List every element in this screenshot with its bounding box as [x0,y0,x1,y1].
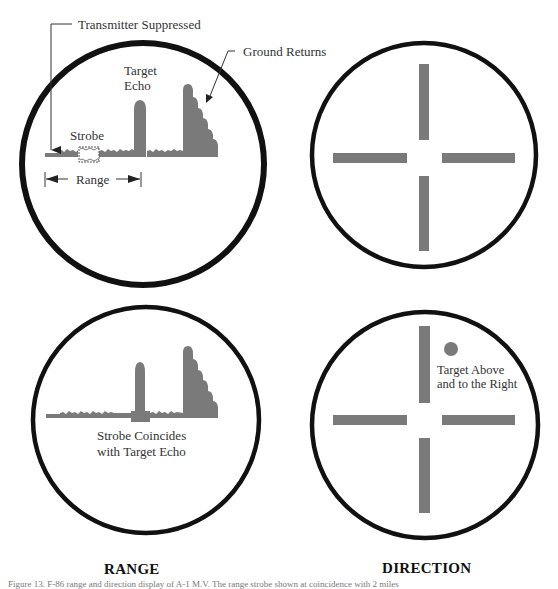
crosshair-top-bar [419,326,430,403]
baseline-trace [45,149,183,157]
direction-scope-bottom: Target Above and to the Right [312,312,538,538]
crosshair-bottom-bar [419,176,429,251]
crosshair-top-bar [419,64,429,140]
target-above-right-label-line2: and to the Right [437,377,518,391]
strobe-label: Strobe [70,128,104,143]
ground-returns-label: Ground Returns [243,44,326,59]
target-blip [444,342,458,356]
strobe-marker [79,147,99,162]
range-panel-title: RANGE [104,561,160,578]
range-scope-top: Transmitter Suppressed Ground Returns Ta… [22,17,326,285]
direction-panel-title: DIRECTION [382,560,471,577]
crosshair-right-bar [442,415,515,425]
strobe-coincides-label-line1: Strobe Coincides [97,428,186,443]
crosshair-left-bar [333,153,407,163]
target-above-right-label-line1: Target Above [437,363,505,377]
crosshair-left-bar [333,415,407,425]
range-label: Range [76,172,109,187]
range-dimension: Range [45,172,141,187]
ground-returns [183,84,218,157]
strobe-coincides-label-line2: with Target Echo [97,444,186,459]
direction-scope-top [312,43,536,267]
target-echo-label-line2: Echo [124,78,151,93]
crosshair-bottom-bar [419,438,430,513]
baseline-trace [46,411,183,418]
ground-returns [183,346,218,418]
crosshair-right-bar [442,153,515,163]
figure-caption: Figure 13. F-86 range and direction disp… [8,579,553,589]
target-echo-label-line1: Target [124,63,157,78]
target-echo-pulse [134,100,146,157]
range-scope-bottom: Strobe Coincides with Target Echo [33,307,259,533]
target-echo-pulse-with-strobe [131,362,150,422]
transmitter-suppressed-label: Transmitter Suppressed [78,17,201,32]
